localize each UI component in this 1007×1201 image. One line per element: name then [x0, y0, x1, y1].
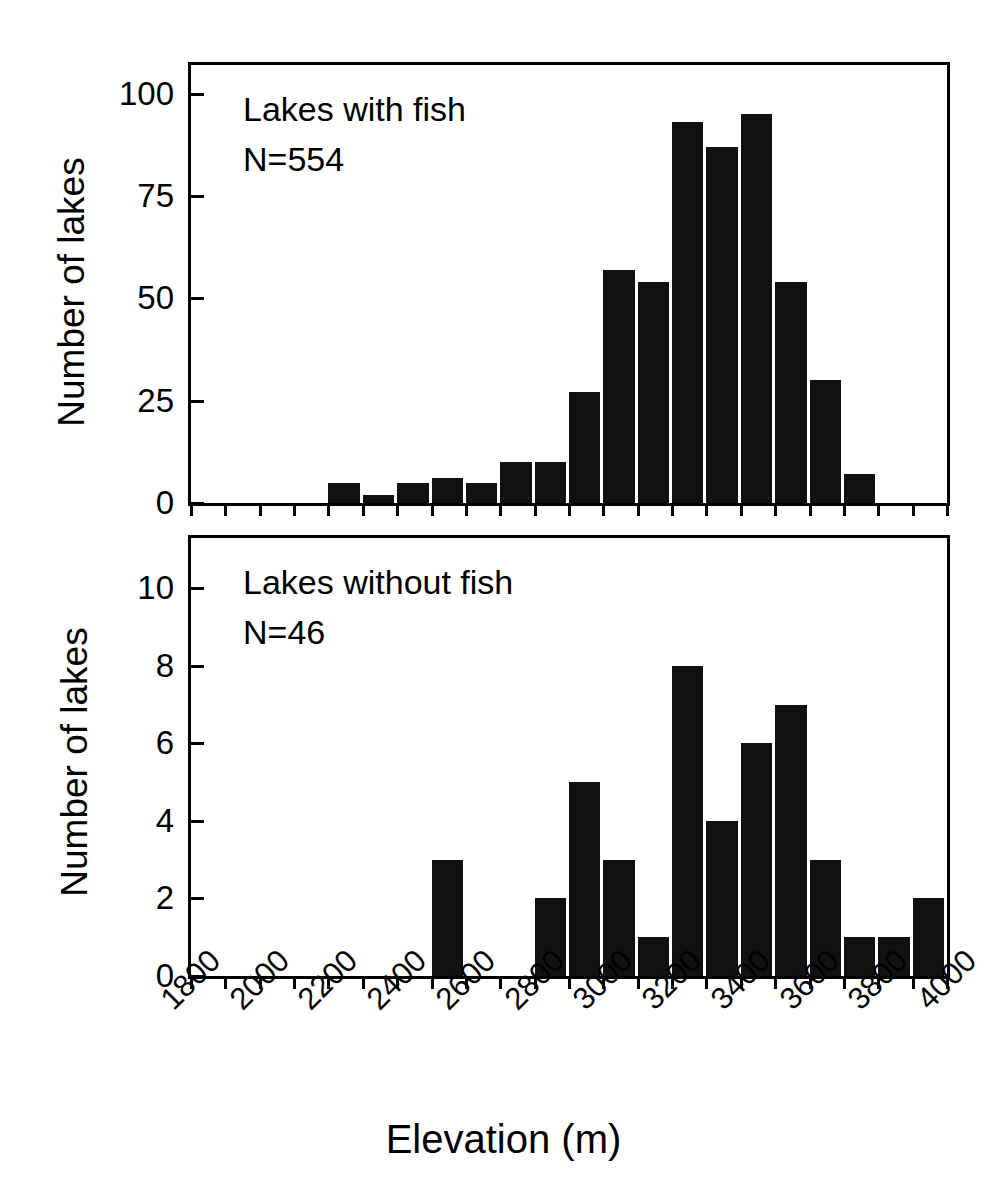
- x-tick-mark: [740, 503, 743, 516]
- x-tick-mark: [705, 503, 708, 516]
- histogram-bar: [741, 114, 772, 503]
- x-tick-labels: 1800200022002400260028003000320034003600…: [0, 0, 1007, 120]
- histogram-bar: [466, 483, 497, 503]
- x-tick-mark: [396, 976, 399, 989]
- x-tick-mark: [637, 503, 640, 516]
- y-tick-mark: [191, 587, 204, 590]
- x-tick-mark: [499, 503, 502, 516]
- x-tick-mark: [568, 976, 571, 989]
- x-tick-mark: [671, 976, 674, 989]
- histogram-bar: [775, 282, 806, 503]
- x-tick-mark: [293, 976, 296, 989]
- x-tick-mark: [809, 503, 812, 516]
- panel-bottom-sample-size: N=46: [243, 610, 325, 654]
- x-tick-mark: [877, 976, 880, 989]
- histogram-bar: [397, 483, 428, 503]
- x-axis-title: Elevation (m): [0, 1115, 1007, 1163]
- x-tick-mark: [465, 976, 468, 989]
- x-tick-mark: [431, 976, 434, 989]
- x-tick-mark: [843, 503, 846, 516]
- histogram-bar: [432, 860, 463, 976]
- y-tick-label: 75: [137, 179, 174, 212]
- x-tick-mark: [774, 976, 777, 989]
- histogram-bar: [603, 270, 634, 503]
- y-tick-mark: [191, 742, 204, 745]
- x-tick-mark: [499, 976, 502, 989]
- histogram-bar: [706, 821, 737, 976]
- y-axis-title-bottom: Number of lakes: [53, 612, 97, 912]
- histogram-bar: [638, 282, 669, 503]
- histogram-bar: [535, 462, 566, 503]
- x-tick-mark: [602, 503, 605, 516]
- x-tick-mark: [327, 976, 330, 989]
- x-tick-mark: [602, 976, 605, 989]
- x-tick-mark: [190, 976, 193, 989]
- x-tick-mark: [259, 976, 262, 989]
- y-tick-label: 6: [156, 726, 174, 759]
- x-tick-mark: [534, 503, 537, 516]
- x-tick-mark: [362, 976, 365, 989]
- x-tick-mark: [396, 503, 399, 516]
- histogram-bar: [844, 474, 875, 503]
- x-tick-mark: [946, 976, 949, 989]
- y-tick-mark: [191, 400, 204, 403]
- histogram-figure: Number of lakes Number of lakes 02550751…: [0, 0, 1007, 1201]
- panel-lakes-with-fish: Lakes with fish N=554: [188, 62, 950, 506]
- histogram-bar: [672, 122, 703, 503]
- x-tick-mark: [705, 976, 708, 989]
- histogram-bar: [363, 495, 394, 503]
- x-tick-mark: [259, 503, 262, 516]
- histogram-bar: [569, 782, 600, 976]
- y-tick-mark: [191, 897, 204, 900]
- y-tick-label: 25: [137, 384, 174, 417]
- y-tick-label: 50: [137, 281, 174, 314]
- y-axis-title-top: Number of lakes: [50, 142, 94, 442]
- histogram-bar: [432, 478, 463, 503]
- y-tick-mark: [191, 665, 204, 668]
- x-tick-mark: [431, 503, 434, 516]
- y-tick-mark: [191, 297, 204, 300]
- x-tick-mark: [740, 976, 743, 989]
- panel-bottom-title: Lakes without fish: [243, 560, 513, 604]
- x-tick-mark: [637, 976, 640, 989]
- x-tick-mark: [534, 976, 537, 989]
- histogram-bar: [500, 462, 531, 503]
- y-tick-label: 10: [137, 571, 174, 604]
- y-tick-label: 2: [156, 881, 174, 914]
- panel-lakes-without-fish: Lakes without fish N=46: [188, 535, 950, 979]
- x-tick-mark: [671, 503, 674, 516]
- histogram-bar: [569, 392, 600, 503]
- x-tick-mark: [946, 503, 949, 516]
- y-tick-mark: [191, 195, 204, 198]
- x-tick-mark: [190, 503, 193, 516]
- x-tick-mark: [362, 503, 365, 516]
- y-tick-label: 4: [156, 804, 174, 837]
- x-tick-mark: [877, 503, 880, 516]
- x-tick-mark: [293, 503, 296, 516]
- panel-top-sample-size: N=554: [243, 137, 344, 181]
- x-tick-mark: [224, 976, 227, 989]
- histogram-bar: [672, 666, 703, 976]
- y-tick-mark: [191, 820, 204, 823]
- x-tick-mark: [465, 503, 468, 516]
- x-tick-mark: [568, 503, 571, 516]
- histogram-bar: [810, 380, 841, 503]
- x-tick-mark: [809, 976, 812, 989]
- x-tick-mark: [327, 503, 330, 516]
- y-tick-label: 0: [156, 486, 174, 519]
- y-tick-label: 8: [156, 649, 174, 682]
- histogram-bar: [741, 743, 772, 976]
- histogram-bar: [706, 147, 737, 503]
- x-tick-mark: [774, 503, 777, 516]
- histogram-bar: [775, 705, 806, 976]
- x-tick-mark: [224, 503, 227, 516]
- x-tick-mark: [912, 976, 915, 989]
- x-tick-mark: [843, 976, 846, 989]
- histogram-bar: [328, 483, 359, 503]
- x-tick-mark: [912, 503, 915, 516]
